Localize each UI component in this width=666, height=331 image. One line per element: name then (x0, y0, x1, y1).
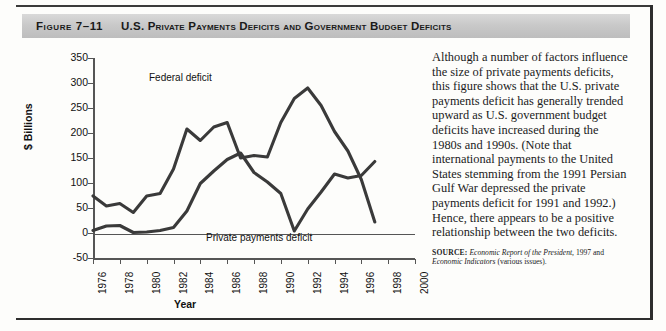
figure-title: U.S. Private Payments Deficits and Gover… (121, 20, 451, 32)
x-tick-label: 2000 (419, 272, 430, 294)
source-note: SOURCE: Economic Report of the President… (432, 248, 628, 267)
caption-paragraph: Although a number of factors influence t… (432, 50, 628, 240)
y-tick-mark (88, 208, 93, 209)
x-tick-label: 1980 (151, 272, 162, 294)
x-tick-mark (415, 259, 416, 264)
y-tick-mark (88, 108, 93, 109)
x-tick-label: 1976 (97, 272, 108, 294)
x-tick-mark (174, 259, 175, 264)
x-tick-mark (93, 259, 94, 264)
page-rule-right (650, 5, 653, 320)
x-tick-label: 1982 (178, 272, 189, 294)
y-tick-mark (88, 158, 93, 159)
figure-page: Figure 7–11 U.S. Private Payments Defici… (0, 0, 666, 331)
x-axis-label: Year (174, 298, 196, 310)
x-tick-mark (227, 259, 228, 264)
x-tick-mark (147, 259, 148, 264)
x-tick-label: 1994 (339, 272, 350, 294)
y-tick-mark (88, 183, 93, 184)
y-tick-mark (88, 58, 93, 59)
chart-area: $ Billions 350300250200150100500-50 Fede… (24, 46, 424, 308)
x-tick-label: 1990 (285, 272, 296, 294)
x-tick-mark (281, 259, 282, 264)
source-tail: (various issues). (495, 257, 546, 266)
series-lines (24, 46, 424, 308)
x-tick-label: 1978 (124, 272, 135, 294)
annotation-federal-deficit: Federal deficit (149, 72, 212, 83)
line-private-payments-deficit (93, 153, 375, 233)
source-label: SOURCE: (432, 248, 468, 257)
x-tick-mark (335, 259, 336, 264)
page-rule-bottom (16, 318, 652, 320)
x-tick-mark (120, 259, 121, 264)
source-title-1: Economic Report of the President, (469, 248, 574, 257)
y-tick-mark (88, 133, 93, 134)
x-tick-mark (388, 259, 389, 264)
x-tick-mark (254, 259, 255, 264)
x-tick-label: 1996 (365, 272, 376, 294)
page-rule-top (16, 5, 652, 7)
source-title-2: Economic Indicators (432, 257, 495, 266)
x-tick-mark (361, 259, 362, 264)
y-tick-mark (88, 83, 93, 84)
figure-caption-column: Although a number of factors influence t… (432, 50, 628, 267)
x-tick-label: 1992 (312, 272, 323, 294)
source-middle: 1997 and (574, 248, 604, 257)
x-tick-mark (200, 259, 201, 264)
x-tick-label: 1984 (204, 272, 215, 294)
x-tick-label: 1986 (231, 272, 242, 294)
figure-header-banner: Figure 7–11 U.S. Private Payments Defici… (22, 14, 630, 38)
x-tick-mark (308, 259, 309, 264)
x-tick-label: 1988 (258, 272, 269, 294)
y-tick-mark (88, 233, 93, 234)
figure-number: Figure 7–11 (36, 20, 103, 32)
x-tick-label: 1998 (392, 272, 403, 294)
annotation-private-payments-deficit: Private payments deficit (206, 232, 312, 243)
